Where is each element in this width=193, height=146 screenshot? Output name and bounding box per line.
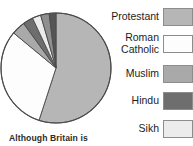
swatch-muslim bbox=[163, 65, 193, 83]
legend-label-protestant: Protestant bbox=[111, 11, 163, 23]
swatch-hindu bbox=[163, 92, 193, 110]
pie-chart bbox=[0, 0, 110, 130]
legend-item-roman-catholic[interactable]: Roman Catholic bbox=[108, 32, 193, 55]
legend-item-protestant[interactable]: Protestant bbox=[108, 8, 193, 26]
swatch-roman-catholic bbox=[163, 35, 193, 53]
legend-label-roman-catholic: Roman Catholic bbox=[121, 32, 163, 55]
swatch-sikh bbox=[163, 120, 193, 138]
legend-label-muslim: Muslim bbox=[126, 68, 163, 80]
legend-item-hindu[interactable]: Hindu bbox=[108, 92, 193, 110]
figure-caption: Although Britain is bbox=[9, 133, 109, 143]
legend-label-sikh: Sikh bbox=[139, 123, 163, 135]
legend-item-muslim[interactable]: Muslim bbox=[108, 65, 193, 83]
legend: Protestant Roman Catholic Muslim Hindu S… bbox=[108, 0, 193, 146]
legend-label-hindu: Hindu bbox=[132, 95, 163, 107]
pie-chart-figure: Although Britain is Protestant Roman Cat… bbox=[0, 0, 193, 146]
pie-chart-svg bbox=[0, 2, 117, 130]
swatch-protestant bbox=[163, 8, 193, 26]
legend-item-sikh[interactable]: Sikh bbox=[108, 120, 193, 138]
